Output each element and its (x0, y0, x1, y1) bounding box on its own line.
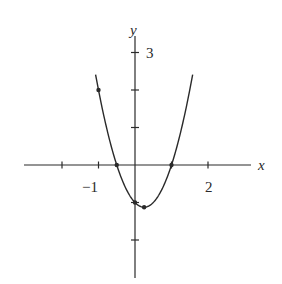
x-axis-label: x (257, 157, 265, 173)
data-point (96, 88, 100, 92)
parabola-chart: x y −1 2 3 (0, 0, 282, 284)
data-point (169, 163, 173, 167)
axes (24, 36, 251, 278)
y-tick-label-3: 3 (146, 45, 154, 61)
data-point (133, 200, 137, 204)
data-point (115, 163, 119, 167)
y-axis-label: y (128, 22, 137, 38)
data-point (142, 205, 146, 209)
x-tick-label-minus1: −1 (82, 179, 98, 195)
parabola-curve (96, 75, 193, 208)
x-tick-label-2: 2 (205, 179, 213, 195)
